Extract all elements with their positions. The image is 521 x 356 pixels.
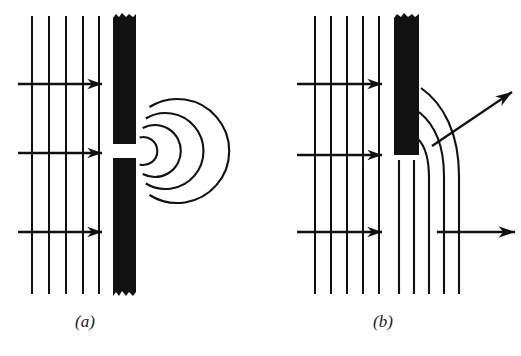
panel-b-caption: (b): [373, 312, 393, 331]
panel-b-barrier: [394, 13, 419, 155]
panel-a-barrier-upper: [113, 13, 136, 144]
panel-a-barrier-lower: [113, 158, 136, 296]
diffraction-figure: (a): [0, 0, 521, 356]
figure-background: [0, 0, 521, 356]
panel-a-caption: (a): [75, 312, 95, 331]
figure-container: (a): [0, 0, 521, 356]
